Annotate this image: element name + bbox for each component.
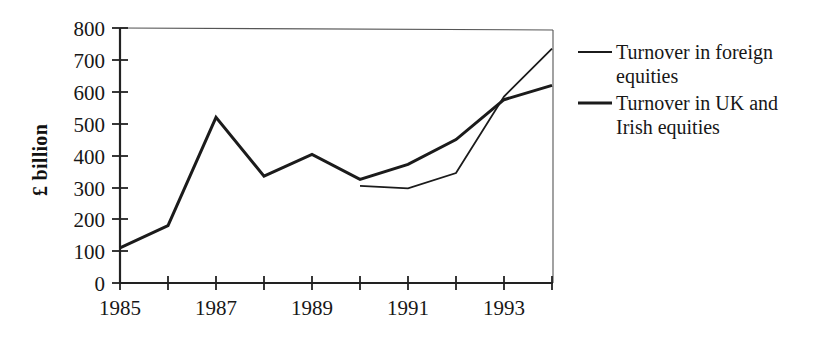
x-tick-label-1985: 1985 bbox=[99, 296, 141, 320]
y-tick-label-100: 100 bbox=[74, 240, 106, 264]
legend-entry-foreign-equities[interactable]: Turnover in foreign equities bbox=[578, 41, 773, 88]
line-chart-figure: 800 700 600 500 400 300 200 100 0 £ bill… bbox=[0, 0, 838, 337]
x-tick-label-1987: 1987 bbox=[195, 296, 237, 320]
y-tick-label-200: 200 bbox=[74, 208, 106, 232]
legend-label-foreign-equities-line1: Turnover in foreign bbox=[616, 41, 773, 64]
data-series-group bbox=[120, 49, 552, 248]
y-tick-label-800: 800 bbox=[74, 17, 106, 41]
legend-label-uk-irish-equities-line2: Irish equities bbox=[616, 116, 720, 139]
series-line-foreign-equities bbox=[360, 49, 552, 189]
x-tick-label-1993: 1993 bbox=[483, 296, 525, 320]
chart-canvas: 800 700 600 500 400 300 200 100 0 £ bill… bbox=[0, 0, 838, 337]
legend-label-uk-irish-equities-line1: Turnover in UK and bbox=[616, 92, 778, 114]
y-tick-label-600: 600 bbox=[74, 81, 106, 105]
y-tick-label-700: 700 bbox=[74, 49, 106, 73]
y-axis-tick-labels: 800 700 600 500 400 300 200 100 0 bbox=[74, 17, 106, 296]
series-line-uk-irish-equities bbox=[120, 85, 552, 248]
x-axis-tick-labels: 1985 1987 1989 1991 1993 bbox=[99, 296, 525, 320]
y-tick-label-500: 500 bbox=[74, 113, 106, 137]
legend-label-foreign-equities-line2: equities bbox=[616, 65, 678, 88]
y-tick-label-400: 400 bbox=[74, 145, 106, 169]
legend-entry-uk-irish-equities[interactable]: Turnover in UK and Irish equities bbox=[578, 92, 778, 139]
x-tick-label-1991: 1991 bbox=[387, 296, 429, 320]
y-tick-label-0: 0 bbox=[95, 272, 106, 296]
x-tick-label-1989: 1989 bbox=[291, 296, 333, 320]
plot-frame bbox=[120, 28, 553, 283]
chart-legend: Turnover in foreign equities Turnover in… bbox=[578, 41, 778, 139]
y-tick-label-300: 300 bbox=[74, 177, 106, 201]
y-axis-title: £ billion bbox=[29, 124, 51, 196]
frame-top-line bbox=[120, 28, 553, 30]
